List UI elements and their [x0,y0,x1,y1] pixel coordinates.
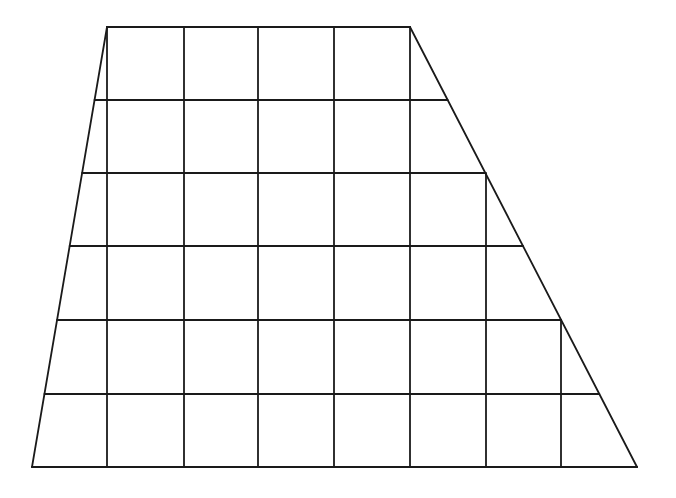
left-slanted-edge [32,27,107,467]
vertical-grid-lines [107,27,561,467]
right-slanted-edge [410,27,637,467]
trapezoid-grid-diagram [0,0,676,498]
diagram-svg [0,0,676,498]
